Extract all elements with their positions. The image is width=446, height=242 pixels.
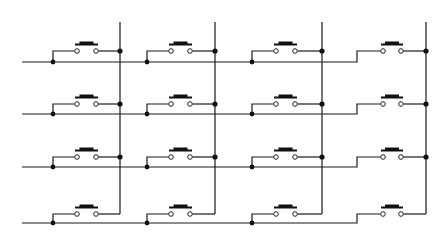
contact-terminal-icon <box>188 49 193 54</box>
switch-r4-c3 <box>250 205 322 226</box>
contact-terminal-icon <box>293 212 298 217</box>
switch-r1-c2 <box>145 42 218 65</box>
switch-r2-c2 <box>145 95 218 117</box>
contact-terminal-icon <box>188 155 193 160</box>
switch-r2-c3 <box>250 95 325 117</box>
contact-terminal-icon <box>381 212 386 217</box>
contact-terminal-icon <box>274 155 279 160</box>
switch-left-lead <box>252 104 274 114</box>
button-cap <box>279 148 293 151</box>
button-cap <box>80 42 94 45</box>
switch-left-lead <box>53 157 75 167</box>
junction-dot <box>319 101 324 106</box>
contact-terminal-icon <box>274 49 279 54</box>
button-cap <box>385 148 399 151</box>
switch-left-lead <box>147 104 169 114</box>
button-cap <box>174 95 188 98</box>
contact-terminal-icon <box>75 49 80 54</box>
junction-dot <box>51 221 56 226</box>
contact-terminal-icon <box>188 212 193 217</box>
switch-r4-c1 <box>51 205 120 226</box>
switch-r3-c1 <box>51 148 123 170</box>
junction-dot <box>250 165 255 170</box>
junction-dot <box>423 154 428 159</box>
switch-r1-c3 <box>250 42 325 65</box>
switch-left-lead <box>53 214 75 223</box>
junction-dot <box>117 48 122 53</box>
contact-terminal-icon <box>399 155 404 160</box>
switch-r2-c4 <box>381 95 429 107</box>
button-cap <box>279 205 293 208</box>
junction-dot <box>145 221 150 226</box>
contact-terminal-icon <box>399 49 404 54</box>
junction-dot <box>51 165 56 170</box>
switch-left-lead <box>252 157 274 167</box>
button-cap <box>385 205 399 208</box>
switch-r4-c4 <box>381 205 426 217</box>
switch-left-lead <box>147 51 169 62</box>
button-cap <box>385 95 399 98</box>
junction-dot <box>51 112 56 117</box>
contact-terminal-icon <box>94 155 99 160</box>
button-cap <box>279 95 293 98</box>
junction-dot <box>423 101 428 106</box>
junction-dot <box>212 154 217 159</box>
junction-dot <box>250 112 255 117</box>
switch-left-lead <box>252 51 274 62</box>
push-button-switches <box>51 42 429 226</box>
junction-dot <box>145 112 150 117</box>
contact-terminal-icon <box>75 102 80 107</box>
contact-terminal-icon <box>188 102 193 107</box>
junction-dot <box>51 60 56 65</box>
junction-dot <box>423 48 428 53</box>
contact-terminal-icon <box>94 212 99 217</box>
junction-dot <box>212 101 217 106</box>
contact-terminal-icon <box>169 102 174 107</box>
switch-left-lead <box>53 51 75 62</box>
switch-r3-c4 <box>381 148 429 160</box>
contact-terminal-icon <box>75 212 80 217</box>
button-cap <box>80 95 94 98</box>
junction-dot <box>145 165 150 170</box>
contact-terminal-icon <box>274 212 279 217</box>
row-lines <box>22 51 381 223</box>
contact-terminal-icon <box>94 49 99 54</box>
button-cap <box>80 205 94 208</box>
button-cap <box>279 42 293 45</box>
button-cap <box>174 42 188 45</box>
contact-terminal-icon <box>293 49 298 54</box>
junction-dot <box>319 48 324 53</box>
button-cap <box>80 148 94 151</box>
contact-terminal-icon <box>274 102 279 107</box>
junction-dot <box>117 101 122 106</box>
contact-terminal-icon <box>293 155 298 160</box>
contact-terminal-icon <box>169 155 174 160</box>
contact-terminal-icon <box>169 49 174 54</box>
contact-terminal-icon <box>94 102 99 107</box>
contact-terminal-icon <box>381 102 386 107</box>
switch-r2-c1 <box>51 95 123 117</box>
switch-r3-c2 <box>145 148 218 170</box>
contact-terminal-icon <box>399 212 404 217</box>
switch-r1-c4 <box>381 42 429 54</box>
switch-r4-c2 <box>145 205 215 226</box>
button-cap <box>174 148 188 151</box>
junction-dot <box>250 60 255 65</box>
switch-r1-c1 <box>51 42 123 65</box>
keypad-matrix-diagram <box>0 0 446 242</box>
switch-left-lead <box>53 104 75 114</box>
contact-terminal-icon <box>75 155 80 160</box>
junction-dot <box>319 154 324 159</box>
contact-terminal-icon <box>169 212 174 217</box>
junction-dot <box>212 48 217 53</box>
junction-dot <box>145 60 150 65</box>
contact-terminal-icon <box>399 102 404 107</box>
junction-dot <box>250 221 255 226</box>
switch-left-lead <box>147 157 169 167</box>
switch-left-lead <box>147 214 169 223</box>
contact-terminal-icon <box>381 49 386 54</box>
button-cap <box>174 205 188 208</box>
junction-dot <box>117 154 122 159</box>
switch-left-lead <box>252 214 274 223</box>
button-cap <box>385 42 399 45</box>
